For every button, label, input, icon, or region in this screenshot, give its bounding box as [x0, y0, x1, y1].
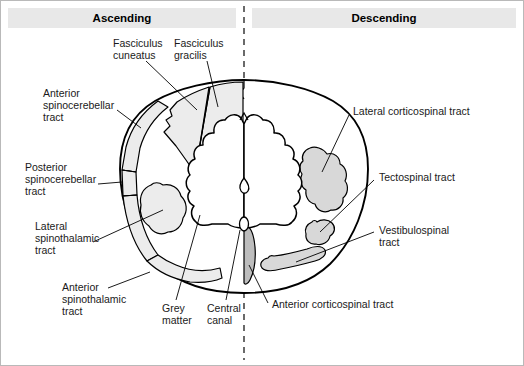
diagram-canvas: Ascending Descending — [0, 0, 524, 366]
label-lateral-spinothalamic-line3: tract — [35, 244, 56, 256]
label-posterior-spinocerebellar-line2: spinocerebellar — [25, 173, 97, 185]
label-fasciculus-cuneatus-line1: Fasciculus — [113, 37, 163, 49]
label-fasciculus-gracilis-line2: gracilis — [174, 49, 207, 61]
label-lateral-corticospinal: Lateral corticospinal tract — [353, 105, 470, 117]
label-grey-matter-line2: matter — [162, 314, 192, 326]
label-posterior-spinocerebellar-line1: Posterior — [25, 161, 68, 173]
label-posterior-spinocerebellar-line3: tract — [25, 185, 46, 197]
label-vestibulospinal-line2: tract — [379, 236, 400, 248]
ascending-header-label: Ascending — [93, 12, 152, 24]
label-lateral-spinothalamic-line1: Lateral — [35, 220, 67, 232]
label-central-canal-line2: canal — [207, 314, 232, 326]
label-vestibulospinal-line1: Vestibulospinal — [379, 224, 449, 236]
label-grey-matter-line1: Grey — [162, 302, 186, 314]
label-tectospinal: Tectospinal tract — [379, 171, 455, 183]
leader-anterior-spinothalamic — [108, 272, 150, 288]
label-fasciculus-cuneatus-line2: cuneatus — [113, 49, 156, 61]
label-anterior-spinothalamic-line2: spinothalamic — [62, 293, 126, 305]
label-anterior-spinocerebellar-line2: spinocerebellar — [43, 99, 115, 111]
label-central-canal-line1: Central — [207, 302, 241, 314]
label-anterior-spinothalamic-line3: tract — [62, 305, 83, 317]
label-anterior-corticospinal: Anterior corticospinal tract — [272, 298, 393, 310]
spinal-cord-tract-figure: Ascending Descending — [0, 0, 524, 366]
label-anterior-spinocerebellar-line3: tract — [43, 111, 64, 123]
central-canal-lumen — [240, 217, 249, 231]
label-fasciculus-gracilis-line1: Fasciculus — [174, 37, 224, 49]
label-lateral-spinothalamic-line2: spinothalamic — [35, 232, 99, 244]
label-anterior-spinothalamic-line1: Anterior — [62, 281, 99, 293]
label-anterior-spinocerebellar-line1: Anterior — [43, 87, 80, 99]
posterior-spinocerebellar-tract-region — [122, 170, 137, 196]
leader-posterior-spinocerebellar — [98, 182, 122, 184]
descending-header-label: Descending — [351, 12, 416, 24]
